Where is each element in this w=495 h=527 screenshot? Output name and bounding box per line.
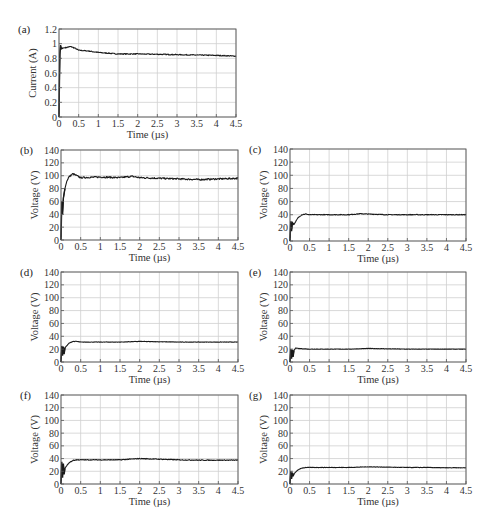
y-tick-label: 0	[52, 112, 57, 123]
y-tick-label: 40	[49, 331, 59, 342]
x-tick-label: 0	[288, 242, 293, 253]
y-tick-label: 100	[44, 170, 59, 181]
x-tick-label: 1.5	[342, 242, 355, 253]
x-axis-label: Time (µs)	[129, 496, 171, 508]
x-tick-labels: 00.511.522.533.544.5	[59, 359, 245, 374]
y-tick-label: 0	[283, 357, 288, 368]
x-axis-label: Time (µs)	[129, 252, 171, 264]
x-tick-label: 1	[327, 363, 332, 374]
y-axis-label: Current (A)	[27, 48, 39, 98]
y-tick-label: 0.2	[45, 97, 58, 108]
x-tick-label: 3.5	[192, 485, 205, 496]
x-tick-label: 2.5	[153, 485, 166, 496]
x-tick-label: 0	[288, 363, 293, 374]
x-axis-label: Time (µs)	[357, 253, 399, 265]
x-tick-label: 4	[444, 485, 449, 496]
y-tick-label: 120	[44, 157, 59, 168]
x-tick-label: 1.5	[114, 241, 127, 252]
x-tick-label: 0	[59, 363, 64, 374]
chart-panel-c: 00.511.522.533.544.5020406080100120140Ti…	[249, 143, 472, 265]
y-tick-label: 120	[44, 279, 59, 290]
y-axis-label: Voltage (V)	[258, 414, 270, 464]
x-tick-label: 1	[96, 118, 101, 129]
x-tick-label: 0.5	[303, 485, 316, 496]
y-tick-label: 60	[278, 318, 288, 329]
panel-label: (d)	[20, 266, 33, 279]
y-tick-label: 40	[49, 209, 59, 220]
y-tick-label: 140	[44, 145, 59, 156]
y-tick-label: 20	[278, 222, 288, 233]
x-tick-label: 3	[405, 485, 410, 496]
y-tick-label: 60	[278, 196, 288, 207]
y-tick-label: 140	[273, 267, 288, 278]
axes-frame	[61, 395, 238, 484]
x-axis-label: Time (µs)	[357, 374, 399, 386]
x-tick-label: 2.5	[153, 363, 166, 374]
x-tick-label: 2.5	[153, 241, 166, 252]
x-tick-label: 1	[98, 485, 103, 496]
x-tick-label: 0.5	[72, 118, 85, 129]
series-line	[61, 174, 238, 240]
y-tick-label: 0.6	[45, 68, 58, 79]
x-tick-label: 3	[405, 242, 410, 253]
x-tick-label: 2.5	[151, 118, 164, 129]
x-tick-label: 0.5	[74, 363, 87, 374]
x-tick-label: 0.5	[74, 485, 87, 496]
x-tick-label: 0	[57, 118, 62, 129]
axes-frame	[61, 272, 238, 362]
x-tick-label: 3.5	[421, 242, 434, 253]
axes-frame	[290, 149, 466, 241]
panel-label: (c)	[249, 143, 262, 156]
x-tick-label: 1.5	[112, 118, 125, 129]
x-tick-label: 1	[98, 241, 103, 252]
y-tick-label: 100	[273, 415, 288, 426]
x-tick-label: 4	[216, 363, 221, 374]
x-tick-labels: 00.511.522.533.544.5	[59, 237, 245, 252]
y-tick-label: 80	[49, 428, 59, 439]
y-tick-label: 120	[273, 279, 288, 290]
figure-canvas: 00.511.522.533.544.500.20.40.60.811.2Tim…	[0, 0, 495, 527]
x-axis-label: Time (µs)	[129, 374, 171, 386]
x-tick-label: 2.5	[382, 363, 395, 374]
chart-panel-d: 00.511.522.533.544.5020406080100120140Ti…	[20, 266, 244, 386]
x-tick-label: 0.5	[303, 363, 316, 374]
y-tick-label: 40	[49, 453, 59, 464]
grid-lines	[61, 395, 238, 484]
y-axis-label: Voltage (V)	[29, 292, 41, 342]
x-tick-label: 1.5	[342, 485, 355, 496]
x-tick-label: 3	[405, 363, 410, 374]
x-tick-label: 2.5	[382, 485, 395, 496]
x-tick-label: 0	[59, 485, 64, 496]
x-tick-label: 4	[444, 242, 449, 253]
x-tick-label: 2	[137, 363, 142, 374]
x-tick-label: 1	[327, 242, 332, 253]
x-tick-label: 4.5	[230, 118, 243, 129]
x-tick-label: 2	[137, 241, 142, 252]
x-tick-label: 3.5	[190, 118, 203, 129]
y-tick-label: 0	[54, 357, 59, 368]
y-tick-label: 1	[52, 38, 57, 49]
x-tick-label: 4	[216, 485, 221, 496]
y-tick-label: 100	[273, 292, 288, 303]
y-tick-label: 140	[44, 267, 59, 278]
y-tick-label: 60	[49, 440, 59, 451]
grid-lines	[290, 149, 466, 241]
x-tick-labels: 00.511.522.533.544.5	[288, 359, 473, 374]
y-tick-label: 0	[283, 479, 288, 490]
x-tick-label: 2	[366, 242, 371, 253]
x-tick-label: 4.5	[460, 485, 473, 496]
x-tick-label: 4.5	[232, 241, 245, 252]
y-tick-label: 0	[283, 236, 288, 247]
series-line	[61, 341, 238, 362]
x-tick-label: 3.5	[192, 363, 205, 374]
x-tick-label: 1.5	[114, 485, 127, 496]
y-tick-label: 20	[49, 466, 59, 477]
chart-panel-b: 00.511.522.533.544.5020406080100120140Ti…	[20, 144, 244, 264]
chart-panel-f: 00.511.522.533.544.5020406080100120140Ti…	[20, 389, 244, 508]
chart-panel-e: 00.511.522.533.544.5020406080100120140Ti…	[249, 266, 472, 386]
x-tick-label: 1	[98, 363, 103, 374]
grid-lines	[59, 29, 236, 117]
y-tick-label: 100	[44, 415, 59, 426]
y-tick-label: 60	[49, 196, 59, 207]
x-tick-label: 1	[327, 485, 332, 496]
